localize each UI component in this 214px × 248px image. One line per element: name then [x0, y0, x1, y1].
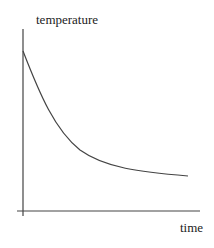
x-axis-label: time	[180, 221, 203, 234]
cooling-curve-diagram	[0, 0, 214, 248]
temperature-curve	[23, 51, 188, 176]
y-axis-label: temperature	[36, 13, 98, 26]
